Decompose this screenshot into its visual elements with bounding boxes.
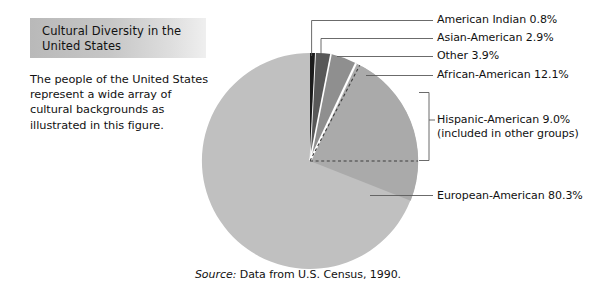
label-hispanic-american-note: (included in other groups) xyxy=(437,127,579,141)
label-african-american: African-American 12.1% xyxy=(437,68,569,82)
hispanic-bracket xyxy=(419,93,435,161)
label-asian-american: Asian-American 2.9% xyxy=(437,31,554,45)
panel-title-line-2: United States xyxy=(42,39,206,54)
label-hispanic-american-main: Hispanic-American 9.0% xyxy=(437,113,570,126)
label-other: Other 3.9% xyxy=(437,49,499,63)
label-european-american: European-American 80.3% xyxy=(437,189,583,203)
label-american-indian: American Indian 0.8% xyxy=(437,13,557,27)
source-text: Data from U.S. Census, 1990. xyxy=(240,268,401,281)
source-caption: Source: Data from U.S. Census, 1990. xyxy=(0,268,596,281)
panel-title-line-1: Cultural Diversity in the xyxy=(42,24,206,39)
source-prefix: Source: xyxy=(195,268,236,281)
panel-body-text: The people of the United States represen… xyxy=(30,72,216,133)
figure-container: Cultural Diversity in the United States … xyxy=(0,0,596,291)
label-hispanic-american: Hispanic-American 9.0% (included in othe… xyxy=(437,113,579,141)
leader-asian-american xyxy=(321,39,433,59)
panel-title-box: Cultural Diversity in the United States xyxy=(30,18,206,58)
